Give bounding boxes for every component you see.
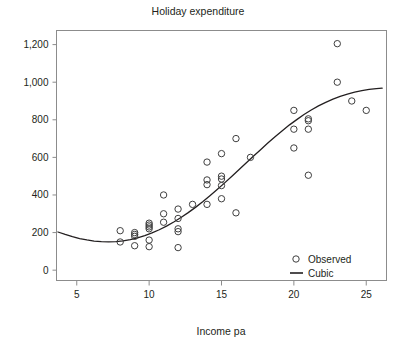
x-tick-label: 20: [288, 289, 300, 300]
chart-title: Holiday expenditure: [152, 5, 245, 17]
x-tick-label: 5: [74, 289, 80, 300]
chart-container: Holiday expenditure 02004006008001,0001,…: [0, 0, 397, 343]
chart-legend: Observed Cubic: [290, 254, 351, 279]
legend-observed-marker-icon: [293, 256, 299, 262]
legend-label-observed: Observed: [308, 254, 351, 265]
cubic-fit-line: [58, 88, 382, 242]
y-tick-label: 600: [32, 152, 49, 163]
data-point: [146, 237, 152, 243]
y-tick-label: 1,000: [23, 77, 48, 88]
data-point: [204, 159, 210, 165]
y-tick-label: 800: [32, 114, 49, 125]
data-point: [233, 210, 239, 216]
data-point: [160, 219, 166, 225]
data-point: [334, 40, 340, 46]
plot-frame: [57, 31, 387, 281]
legend-label-cubic: Cubic: [308, 268, 334, 279]
data-point: [175, 244, 181, 250]
x-axis-ticks: 510152025: [74, 281, 372, 300]
data-point: [291, 145, 297, 151]
y-tick-label: 0: [43, 265, 49, 276]
y-tick-label: 400: [32, 189, 49, 200]
data-point: [204, 201, 210, 207]
data-point: [305, 172, 311, 178]
data-point: [218, 196, 224, 202]
data-point: [305, 126, 311, 132]
data-point: [291, 126, 297, 132]
y-tick-label: 1,200: [23, 39, 48, 50]
data-point: [204, 181, 210, 187]
x-tick-label: 10: [144, 289, 156, 300]
data-point: [175, 206, 181, 212]
data-point: [334, 79, 340, 85]
data-point: [218, 150, 224, 156]
data-point: [363, 107, 369, 113]
x-axis-label: Income pa: [196, 325, 245, 337]
data-point: [131, 243, 137, 249]
data-point: [349, 98, 355, 104]
data-point: [160, 211, 166, 217]
data-point: [291, 107, 297, 113]
x-tick-label: 15: [216, 289, 228, 300]
data-point: [117, 227, 123, 233]
data-point: [189, 201, 195, 207]
y-tick-label: 200: [32, 227, 49, 238]
observed-data-points: [117, 40, 369, 250]
data-point: [160, 192, 166, 198]
holiday-expenditure-scatter-chart: Holiday expenditure 02004006008001,0001,…: [0, 0, 397, 343]
x-tick-label: 25: [361, 289, 373, 300]
data-point: [233, 135, 239, 141]
y-axis-ticks: 02004006008001,0001,200: [23, 39, 56, 276]
data-point: [146, 243, 152, 249]
